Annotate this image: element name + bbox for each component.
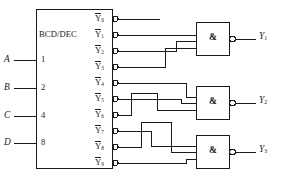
- input-label-c: C: [4, 111, 10, 120]
- gate-2-output-bubble: [230, 100, 236, 106]
- output-pin-bubble-9: [113, 160, 118, 165]
- decoder-block-label: BCD/DEC: [39, 30, 77, 39]
- decoder-output-label-0: Y0: [95, 13, 104, 24]
- net-y7-to-gate3: [118, 131, 196, 146]
- input-pin-weight-a: 1: [41, 55, 45, 64]
- input-pin-weight-c: 4: [41, 111, 45, 120]
- circuit-diagram: BCD/DEC A B C D 1 2 4 8 Y0 Y1 Y2 Y3 Y4 Y…: [0, 0, 281, 180]
- net-y9-to-gate3: [118, 159, 196, 163]
- decoder-output-label-7: Y7: [95, 125, 104, 136]
- input-label-b: B: [4, 83, 10, 92]
- gate-3-output-bubble: [230, 149, 236, 155]
- decoder-output-label-4: Y4: [95, 77, 104, 88]
- output-pin-bubble-6: [113, 112, 118, 117]
- output-pin-bubble-7: [113, 128, 118, 133]
- output-label-y3: Y3: [259, 145, 267, 155]
- output-label-y2: Y2: [259, 96, 267, 106]
- decoder-output-label-5: Y5: [95, 93, 104, 104]
- decoder-output-label-8: Y8: [95, 141, 104, 152]
- net-y2-to-gate1: [118, 42, 196, 52]
- output-pin-bubble-0: [113, 16, 118, 21]
- decoder-output-label-6: Y6: [95, 109, 104, 120]
- output-pin-bubble-1: [113, 32, 118, 37]
- output-pin-bubble-3: [113, 64, 118, 69]
- decoder-output-label-9: Y9: [95, 157, 104, 168]
- output-pin-bubble-5: [113, 96, 118, 101]
- gate-1-output-bubble: [230, 36, 236, 42]
- input-pin-weight-b: 2: [41, 83, 45, 92]
- output-label-y1: Y1: [259, 32, 267, 42]
- gate-3-symbol: &: [209, 146, 217, 156]
- input-pin-weight-d: 8: [41, 138, 45, 147]
- input-label-a: A: [4, 55, 10, 64]
- output-pin-bubble-2: [113, 48, 118, 53]
- decoder-output-label-2: Y2: [95, 45, 104, 56]
- net-y8-to-gate3: [118, 122, 196, 153]
- decoder-output-label-3: Y3: [95, 61, 104, 72]
- output-pin-bubble-4: [113, 80, 118, 85]
- gate-1-symbol: &: [209, 33, 217, 43]
- input-label-d: D: [4, 138, 11, 147]
- output-pin-bubble-8: [113, 144, 118, 149]
- decoder-output-label-1: Y1: [95, 29, 104, 40]
- gate-2-symbol: &: [209, 97, 217, 107]
